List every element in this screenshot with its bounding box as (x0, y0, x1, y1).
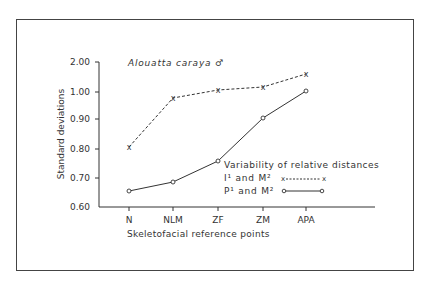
series-i1-m2-line (129, 74, 306, 147)
svg-text:0.90: 0.90 (70, 114, 90, 124)
x-axis-label: Skeletofacial reference points (127, 229, 270, 239)
series-i1-m2-markers: x x x x x (127, 70, 309, 152)
svg-text:x: x (304, 70, 309, 79)
svg-text:N: N (126, 215, 133, 225)
chart-title: Alouatta caraya ♂ (127, 58, 224, 68)
svg-text:ZF: ZF (212, 215, 223, 225)
svg-text:0.70: 0.70 (70, 173, 90, 183)
series-p1-m2-line (129, 91, 306, 191)
x-tick-labels: N NLM ZF ZM APA (126, 215, 316, 225)
svg-text:2.00: 2.00 (70, 57, 90, 67)
svg-text:ZM: ZM (256, 215, 270, 225)
line-chart: 2.00 1.00 0.90 0.80 0.70 0.60 Standard d… (0, 0, 428, 288)
svg-text:x: x (216, 86, 221, 95)
svg-text:NLM: NLM (163, 215, 183, 225)
svg-text:x: x (171, 94, 176, 103)
svg-text:x: x (281, 175, 285, 183)
svg-text:APA: APA (297, 215, 315, 225)
legend-label-i1-m2: I¹ and M² (224, 173, 272, 183)
svg-text:0.80: 0.80 (70, 144, 90, 154)
svg-text:x: x (127, 143, 132, 152)
y-tick-labels: 2.00 1.00 0.90 0.80 0.70 0.60 (70, 57, 90, 212)
legend-label-p1-m2: P¹ and M² (224, 186, 274, 196)
svg-text:x: x (261, 83, 266, 92)
svg-text:0.60: 0.60 (70, 202, 90, 212)
svg-text:x: x (322, 175, 326, 183)
legend: Variability of relative distances I¹ and… (224, 160, 379, 196)
y-axis-label: Standard deviations (56, 89, 66, 180)
y-ticks (95, 62, 99, 178)
x-ticks (129, 207, 306, 211)
legend-title: Variability of relative distances (224, 160, 379, 170)
svg-text:1.00: 1.00 (70, 87, 90, 97)
